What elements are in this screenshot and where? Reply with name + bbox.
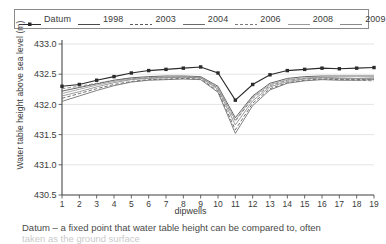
- figure-caption: Datum – a fixed point that water table h…: [22, 222, 372, 244]
- series-marker: [147, 69, 150, 72]
- y-tick-label: 433.0: [34, 39, 57, 49]
- series-marker: [268, 73, 271, 76]
- caption-line-2: taken as the ground surface: [22, 233, 372, 244]
- series-marker: [234, 98, 237, 101]
- legend-label: 2008: [313, 14, 333, 24]
- series-marker: [355, 66, 358, 69]
- series-marker: [320, 66, 323, 69]
- legend-entry-datum[interactable]: Datum: [19, 14, 71, 24]
- legend-swatch-2004-icon: [183, 15, 205, 24]
- legend-swatch-2008-icon: [288, 15, 310, 24]
- y-tick-label: 430.5: [34, 190, 57, 200]
- legend-label: Datum: [44, 14, 71, 24]
- legend-swatch-2003-icon: [130, 15, 152, 24]
- series-marker: [182, 66, 185, 69]
- series-line-2008: [62, 77, 374, 120]
- series-line-2009: [62, 77, 374, 125]
- legend-swatch-1998-icon: [78, 15, 100, 24]
- series-marker: [372, 66, 375, 69]
- series-marker: [164, 68, 167, 71]
- series-marker: [112, 75, 115, 78]
- y-tick-label: 432.0: [34, 100, 57, 110]
- chart-legend: Datum199820032004200620082009: [14, 9, 369, 29]
- legend-entry-2004[interactable]: 2004: [183, 14, 228, 24]
- legend-swatch-2006-icon: [235, 15, 257, 24]
- legend-label: 2009: [365, 14, 385, 24]
- legend-entry-2009[interactable]: 2009: [340, 14, 385, 24]
- series-marker: [95, 79, 98, 82]
- y-tick-label: 431.0: [34, 160, 57, 170]
- series-marker: [251, 83, 254, 86]
- legend-label: 1998: [103, 14, 123, 24]
- caption-line-1: Datum – a fixed point that water table h…: [22, 222, 372, 233]
- series-marker: [199, 65, 202, 68]
- y-tick-label: 431.5: [34, 130, 57, 140]
- series-marker: [338, 67, 341, 70]
- legend-label: 2006: [260, 14, 280, 24]
- legend-entry-2003[interactable]: 2003: [130, 14, 175, 24]
- legend-label: 2003: [155, 14, 175, 24]
- legend-entry-2008[interactable]: 2008: [288, 14, 333, 24]
- x-axis-title: dipwells: [0, 206, 381, 216]
- plot-svg: 430.5431.0431.5432.0432.5433.01234567891…: [0, 30, 381, 210]
- series-marker: [60, 85, 63, 88]
- legend-label: 2004: [208, 14, 228, 24]
- y-tick-label: 432.5: [34, 69, 57, 79]
- series-marker: [303, 68, 306, 71]
- series-marker: [216, 71, 219, 74]
- legend-entry-2006[interactable]: 2006: [235, 14, 280, 24]
- legend-swatch-2009-icon: [340, 15, 362, 24]
- legend-entry-1998[interactable]: 1998: [78, 14, 123, 24]
- chart-area: Water table height above sea level (m) 4…: [0, 30, 381, 210]
- series-marker: [286, 69, 289, 72]
- series-marker: [130, 71, 133, 74]
